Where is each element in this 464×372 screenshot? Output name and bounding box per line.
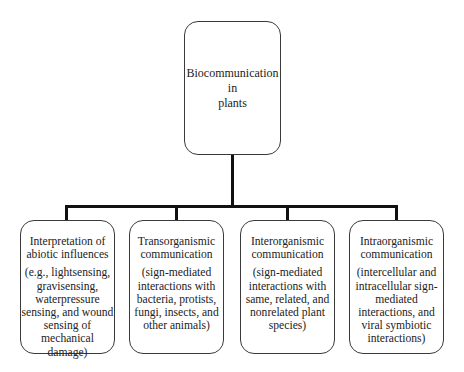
drop-connector-3 [286, 205, 289, 221]
drop-connector-1 [65, 205, 68, 221]
node-title: Interpretation of abiotic influences [26, 235, 108, 261]
node-interorganismic: Interorganismic communication (sign-medi… [240, 220, 335, 354]
node-transorganismic: Transorganismic communication (sign-medi… [129, 220, 224, 354]
node-description: (e.g., lightsensing, gravisensing, water… [21, 266, 114, 358]
node-description: (sign-mediated interactions with same, r… [246, 266, 330, 332]
drop-connector-4 [395, 205, 398, 221]
drop-connector-2 [175, 205, 178, 221]
node-title: Interorganismic communication [251, 235, 324, 261]
horizontal-bus-connector [65, 205, 398, 208]
node-description: (sign-mediated interactions with bacteri… [134, 266, 218, 332]
root-node-biocommunication: Biocommunication in plants [184, 21, 281, 155]
node-intraorganismic: Intraorganismic communication (intercell… [349, 220, 444, 354]
root-node-label: Biocommunication in plants [187, 66, 279, 111]
node-title: Intraorganismic communication [360, 235, 433, 261]
node-title: Transorganismic communication [138, 235, 215, 261]
node-description: (intercellular and intracellular sign- m… [355, 266, 437, 345]
node-abiotic-influences: Interpretation of abiotic influences (e.… [20, 220, 115, 354]
root-stem-connector [231, 154, 234, 208]
